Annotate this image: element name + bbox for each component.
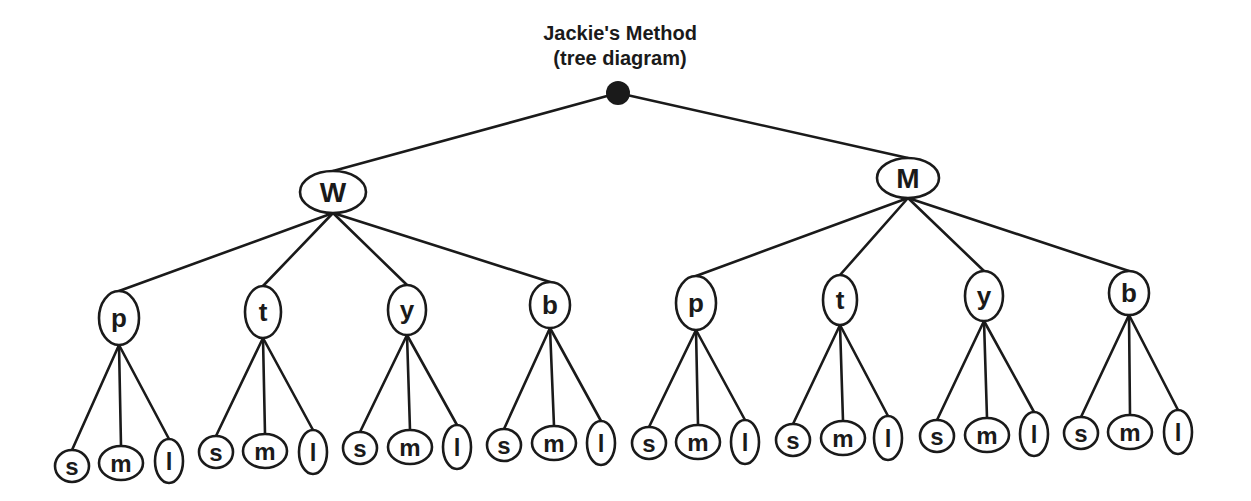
node-label: s: [642, 430, 655, 457]
leaf-node-s: s: [920, 420, 954, 452]
node-label: m: [543, 430, 564, 457]
leaf-node-s: s: [55, 450, 89, 482]
branch-node-y: y: [965, 271, 1003, 321]
leaf-node-l: l: [874, 416, 902, 460]
tree-edge: [263, 338, 313, 430]
leaf-node-s: s: [1064, 417, 1098, 449]
tree-edge: [119, 345, 121, 446]
node-label: y: [400, 295, 415, 325]
branch-node-M: M: [877, 158, 939, 198]
node-label: b: [1121, 278, 1137, 308]
tree-edge: [1081, 315, 1129, 417]
node-label: m: [254, 438, 275, 465]
node-label: s: [1074, 420, 1087, 447]
node-label: l: [598, 430, 605, 457]
leaf-node-s: s: [776, 424, 810, 456]
tree-edges: [72, 93, 1178, 450]
root-node: [606, 81, 630, 105]
leaf-node-m: m: [388, 430, 432, 464]
tree-edge: [333, 213, 550, 282]
tree-edge: [984, 321, 987, 418]
tree-nodes: smlpsmltsmlysmlbWsmlpsmltsmlysmlbM: [55, 81, 1192, 483]
leaf-node-s: s: [487, 429, 521, 461]
tree-edge: [618, 93, 908, 158]
leaf-node-s: s: [632, 427, 666, 459]
node-label: s: [209, 439, 222, 466]
tree-edge: [1129, 315, 1178, 410]
node-label: l: [742, 429, 749, 456]
tree-edge: [263, 213, 333, 286]
leaf-node-m: m: [99, 446, 143, 480]
tree-edge: [216, 338, 263, 436]
node-label: m: [110, 450, 131, 477]
branch-node-p: p: [676, 276, 716, 330]
node-label: M: [896, 163, 919, 194]
leaf-node-l: l: [731, 420, 759, 464]
leaf-node-l: l: [1020, 412, 1048, 456]
node-label: m: [399, 434, 420, 461]
tree-edge: [696, 198, 908, 276]
tree-edge: [550, 328, 554, 426]
leaf-node-l: l: [1164, 410, 1192, 454]
node-label: s: [786, 427, 799, 454]
leaf-node-m: m: [243, 434, 287, 468]
leaf-node-s: s: [199, 436, 233, 468]
node-label: t: [836, 285, 845, 315]
node-label: m: [687, 429, 708, 456]
leaf-node-m: m: [965, 418, 1009, 452]
tree-edge: [840, 325, 843, 421]
node-label: s: [497, 432, 510, 459]
tree-edge: [407, 335, 410, 430]
tree-edge: [550, 328, 601, 421]
node-label: p: [111, 303, 127, 333]
tree-edge: [984, 321, 1034, 412]
node-label: l: [454, 434, 461, 461]
leaf-node-m: m: [676, 425, 720, 459]
tree-edge: [649, 330, 696, 427]
branch-node-t: t: [823, 275, 857, 325]
tree-edge: [119, 213, 333, 291]
tree-edge: [908, 198, 1129, 271]
leaf-node-m: m: [1108, 415, 1152, 449]
tree-edge: [696, 330, 745, 420]
tree-edge: [407, 335, 457, 425]
branch-node-y: y: [388, 285, 426, 335]
leaf-node-m: m: [821, 421, 865, 455]
node-label: s: [65, 453, 78, 480]
tree-edge: [504, 328, 550, 429]
branch-node-b: b: [530, 282, 570, 328]
tree-edge: [263, 338, 265, 434]
node-label: m: [976, 422, 997, 449]
branch-node-p: p: [99, 291, 139, 345]
node-label: b: [542, 290, 558, 320]
branch-node-W: W: [300, 171, 366, 213]
node-label: l: [1175, 419, 1182, 446]
tree-edge: [937, 321, 984, 420]
node-label: t: [259, 297, 268, 327]
tree-edge: [360, 335, 407, 432]
leaf-node-l: l: [443, 425, 471, 469]
node-label: l: [166, 448, 173, 475]
node-label: l: [885, 425, 892, 452]
tree-edge: [333, 93, 618, 171]
tree-edge: [119, 345, 169, 439]
tree-edge: [1129, 315, 1130, 415]
leaf-node-m: m: [532, 426, 576, 460]
node-label: p: [688, 288, 704, 318]
node-label: W: [320, 177, 347, 208]
node-label: y: [977, 281, 992, 311]
node-label: s: [353, 435, 366, 462]
tree-diagram: smlpsmltsmlysmlbWsmlpsmltsmlysmlbM: [0, 0, 1251, 501]
tree-edge: [908, 198, 984, 271]
node-label: m: [832, 425, 853, 452]
tree-edge: [793, 325, 840, 424]
tree-edge: [72, 345, 119, 450]
leaf-node-l: l: [299, 430, 327, 474]
leaf-node-s: s: [343, 432, 377, 464]
tree-edge: [840, 325, 888, 416]
node-label: l: [1031, 421, 1038, 448]
branch-node-b: b: [1109, 271, 1149, 315]
leaf-node-l: l: [587, 421, 615, 465]
leaf-node-l: l: [155, 439, 183, 483]
node-label: s: [930, 423, 943, 450]
